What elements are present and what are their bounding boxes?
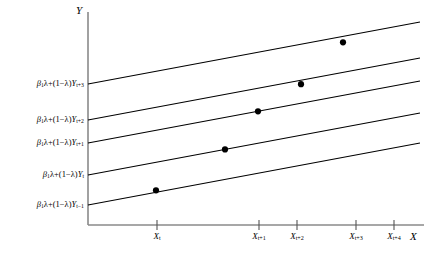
data-point-1: [153, 187, 159, 193]
data-point-2: [222, 146, 228, 152]
data-point-3: [255, 108, 261, 114]
Y-subscript: t−1: [76, 203, 84, 209]
y-tick-label-t-plus-3: β1λ+(1−λ)Yt+3: [6, 78, 84, 88]
x-tick-label-t-plus-3: Xt+3: [349, 231, 363, 241]
lambda-expression: λ+(1−λ): [44, 199, 72, 209]
Y-subscript: t: [82, 173, 84, 179]
lambda-expression: λ+(1−λ): [44, 78, 72, 88]
series-line-t-plus-1: [88, 81, 420, 143]
Y-subscript: t+2: [76, 118, 84, 124]
X-subscript: t: [159, 235, 161, 241]
series-line-t: [88, 113, 420, 175]
chart-figure: Y X β1λ+(1−λ)Yt+3 β1λ+(1−λ)Yt+2 β1λ+(1−λ…: [0, 0, 426, 255]
lambda-expression: λ+(1−λ): [44, 137, 72, 147]
lambda-expression: λ+(1−λ): [50, 169, 78, 179]
series-line-t-plus-2: [88, 58, 420, 120]
Y-subscript: t+3: [76, 82, 84, 88]
x-tick-label-t-plus-1: Xt+1: [252, 231, 266, 241]
plot-area: [0, 0, 426, 255]
y-tick-label-t-plus-1: β1λ+(1−λ)Yt+1: [6, 137, 84, 147]
series-line-t-plus-3: [88, 22, 420, 84]
data-point-5: [340, 39, 346, 45]
x-tick-label-t: Xt: [153, 231, 160, 241]
Y-subscript: t+1: [76, 141, 84, 147]
y-tick-label-t: β1λ+(1−λ)Yt: [6, 169, 84, 179]
data-point-4: [298, 81, 304, 87]
x-tick-label-t-plus-2: Xt+2: [290, 231, 304, 241]
X-subscript: t+3: [355, 235, 363, 241]
X-subscript: t+4: [393, 235, 401, 241]
y-tick-label-t-plus-2: β1λ+(1−λ)Yt+2: [6, 114, 84, 124]
X-subscript: t+1: [258, 235, 266, 241]
X-subscript: t+2: [296, 235, 304, 241]
y-axis-title: Y: [76, 4, 82, 16]
x-axis-title: X: [410, 230, 417, 242]
series-line-t-minus-1: [88, 143, 420, 205]
y-tick-label-t-minus-1: β1λ+(1−λ)Yt−1: [6, 199, 84, 209]
x-tick-label-t-plus-4: Xt+4: [387, 231, 401, 241]
lambda-expression: λ+(1−λ): [44, 114, 72, 124]
